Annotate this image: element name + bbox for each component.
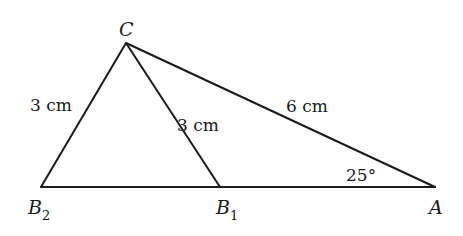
length-label-ca: 6 cm — [286, 96, 328, 116]
triangle-diagram: C B2 B1 A 3 cm 3 cm 6 cm 25° — [0, 0, 463, 236]
vertex-label-a: A — [427, 196, 443, 218]
vertex-label-b2: B2 — [27, 196, 50, 223]
diagram-canvas: C B2 B1 A 3 cm 3 cm 6 cm 25° — [0, 0, 463, 236]
vertex-label-b2-subscript: 2 — [42, 208, 50, 223]
length-label-cb2: 3 cm — [30, 95, 72, 115]
vertex-label-b1-main: B — [215, 196, 230, 218]
vertex-label-b1: B1 — [215, 196, 238, 223]
segment-c-b2 — [41, 43, 126, 187]
vertex-label-c: C — [119, 18, 134, 40]
vertex-label-b2-main: B — [27, 196, 42, 218]
length-label-cb1: 3 cm — [177, 115, 219, 135]
angle-label-a: 25° — [346, 165, 376, 185]
vertex-label-b1-subscript: 1 — [230, 208, 238, 223]
